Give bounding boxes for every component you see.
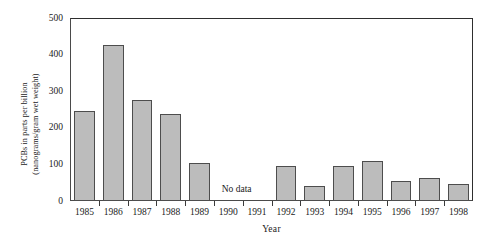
bar-1992: [276, 166, 297, 201]
bar-1997: [419, 178, 440, 201]
no-data-annotation: No data: [222, 184, 252, 194]
y-axis-title-line-1: PCBs in parts per billion: [19, 29, 30, 219]
bar-1998: [448, 184, 469, 201]
y-axis-tick-label: 0: [33, 196, 63, 206]
x-axis-tick-label-1998: 1998: [439, 206, 479, 218]
bar-1988: [160, 114, 181, 201]
y-axis-tick-label: 500: [33, 13, 63, 23]
bar-1994: [333, 166, 354, 201]
y-axis-tick-label: 400: [33, 49, 63, 59]
bar-1987: [132, 100, 153, 201]
bar-1986: [103, 45, 124, 201]
y-axis-tick-label: 200: [33, 122, 63, 132]
y-axis-tick-label: 100: [33, 159, 63, 169]
bars-layer: [70, 18, 473, 201]
y-axis-tick-label: 300: [33, 86, 63, 96]
x-axis-title: Year: [70, 224, 473, 234]
bar-chart-figure: PCBs in parts per billion (nanograms/gra…: [0, 0, 485, 246]
bar-1985: [74, 111, 95, 201]
bar-1996: [391, 181, 412, 201]
bar-1993: [304, 186, 325, 201]
bar-1989: [189, 163, 210, 201]
bar-1995: [362, 161, 383, 201]
